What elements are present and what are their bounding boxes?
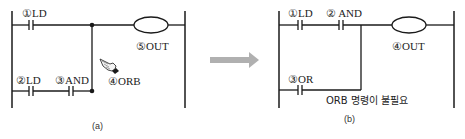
ladder-diagram-comparison: ①LD ⑤OUT ②LD ③AND ④O (0, 0, 465, 139)
rung-2-or-contact: ③OR (279, 73, 361, 95)
contact-label: ② AND (326, 7, 362, 19)
orb-label: ④ORB (108, 75, 141, 87)
right-arrow-icon (210, 52, 259, 68)
junction-dot (90, 89, 95, 94)
rung-1-ld-contact: ①LD (12, 7, 134, 30)
coil-icon (392, 17, 426, 33)
pointing-hand-icon (100, 59, 119, 74)
contact-label: ③AND (55, 74, 89, 86)
coil-label: ④OUT (392, 40, 425, 52)
coil-label: ⑤OUT (136, 40, 169, 52)
caption-a: (a) (92, 121, 103, 131)
rung-1-ld-and-contacts: ①LD ② AND (279, 7, 392, 30)
contact-label: ①LD (288, 7, 313, 19)
caption-b: (b) (344, 114, 355, 124)
ladder-diagram-a: ①LD ⑤OUT ②LD ③AND ④O (12, 7, 185, 131)
output-coil: ④OUT (392, 17, 454, 52)
contact-label: ③OR (288, 73, 314, 85)
contact-label: ①LD (22, 7, 47, 19)
ladder-diagram-b: ①LD ② AND ④OUT ③OR ORB 명령이 불필요 (b) (279, 7, 454, 124)
rung-2-ld-and-contacts: ②LD ③AND (12, 74, 92, 96)
coil-icon (134, 17, 168, 33)
output-coil: ⑤OUT (134, 17, 185, 52)
orb-unnecessary-note: ORB 명령이 불필요 (326, 95, 408, 106)
contact-label: ②LD (16, 74, 41, 86)
